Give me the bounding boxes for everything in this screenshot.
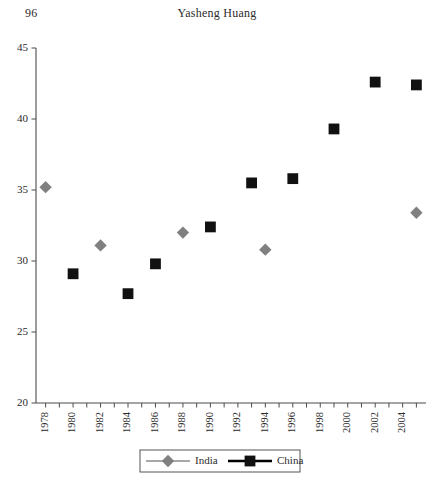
data-point-china xyxy=(246,178,257,189)
legend-label-china: China xyxy=(277,454,303,466)
scatter-chart: 202530354045 197819801982198419861988199… xyxy=(0,30,434,485)
x-tick-label: 2000 xyxy=(341,412,352,433)
legend-marker-china xyxy=(245,456,256,467)
x-axis: 1978198019821984198619881990199219941996… xyxy=(36,403,426,433)
y-tick-label: 30 xyxy=(17,254,29,266)
x-tick-label: 1986 xyxy=(149,412,160,433)
data-point-india xyxy=(94,239,106,251)
x-tick-label: 1992 xyxy=(231,412,242,433)
data-point-china xyxy=(370,77,381,88)
chart-canvas: 202530354045 197819801982198419861988199… xyxy=(0,30,434,485)
x-tick-label: 1998 xyxy=(314,412,325,433)
y-tick-label: 40 xyxy=(17,112,29,124)
data-point-china xyxy=(329,124,340,135)
y-tick-label: 25 xyxy=(17,325,29,337)
x-tick-label: 2002 xyxy=(369,412,380,433)
data-point-china xyxy=(287,173,298,184)
data-point-india xyxy=(410,207,422,219)
chart-legend: IndiaChina xyxy=(140,450,303,472)
data-point-china xyxy=(123,288,134,299)
x-tick-label: 1984 xyxy=(121,411,132,433)
y-axis: 202530354045 xyxy=(17,41,36,408)
x-tick-label: 1990 xyxy=(204,412,215,433)
data-point-china xyxy=(150,258,161,269)
legend-label-india: India xyxy=(195,454,218,466)
page-header: 96 Yasheng Huang xyxy=(0,6,434,28)
running-head: Yasheng Huang xyxy=(0,6,434,21)
data-points xyxy=(39,77,422,299)
x-tick-label: 1980 xyxy=(66,412,77,433)
data-point-china xyxy=(68,268,79,279)
x-tick-label: 1988 xyxy=(176,412,187,433)
x-tick-label: 2004 xyxy=(396,411,407,433)
data-point-china xyxy=(205,222,216,233)
data-point-india xyxy=(39,181,51,193)
x-tick-label: 1994 xyxy=(259,411,270,433)
x-tick-label: 1982 xyxy=(94,412,105,433)
data-point-china xyxy=(411,80,422,91)
y-tick-label: 20 xyxy=(17,396,29,408)
y-tick-label: 35 xyxy=(17,183,29,195)
y-tick-label: 45 xyxy=(17,41,29,53)
x-tick-label: 1978 xyxy=(39,412,50,433)
data-point-india xyxy=(259,243,271,255)
data-point-india xyxy=(177,226,189,238)
x-tick-label: 1996 xyxy=(286,412,297,433)
